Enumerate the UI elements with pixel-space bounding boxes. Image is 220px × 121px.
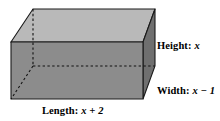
prism-diagram xyxy=(0,0,220,121)
length-label-name: Length: xyxy=(42,105,78,116)
prism-front-face xyxy=(11,42,143,99)
rectangular-prism-figure: Height:x Width:x − 1 Length:x + 2 xyxy=(0,0,220,121)
width-label-value: x − 1 xyxy=(190,85,216,96)
height-label-name: Height: xyxy=(157,40,192,51)
length-label: Length:x + 2 xyxy=(42,105,104,117)
height-label-value: x xyxy=(192,40,200,51)
width-label: Width:x − 1 xyxy=(157,85,215,97)
width-label-name: Width: xyxy=(157,85,190,96)
length-label-value: x + 2 xyxy=(78,105,103,116)
height-label: Height:x xyxy=(157,40,200,52)
